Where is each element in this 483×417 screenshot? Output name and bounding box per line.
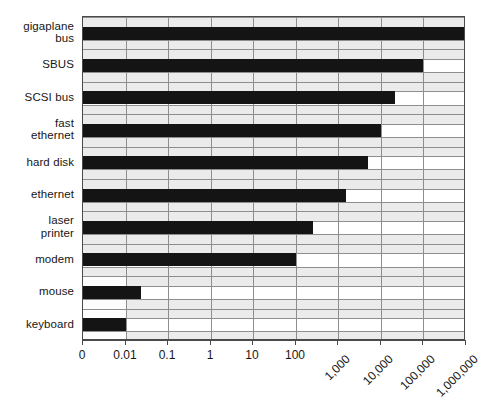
x-tick — [380, 340, 381, 345]
horizontal-gridline — [83, 276, 464, 277]
row-band — [83, 299, 464, 309]
category-label-line: laser — [0, 214, 74, 227]
row-band — [83, 40, 464, 50]
horizontal-gridline — [83, 299, 464, 300]
horizontal-gridline — [83, 40, 464, 41]
row-band — [83, 49, 464, 59]
horizontal-gridline — [83, 105, 464, 106]
category-label-line: bus — [0, 32, 74, 45]
bandwidth-bar-chart: gigaplanebusSBUSSCSI busfastethernethard… — [0, 0, 483, 417]
category-label-laser-printer: laserprinter — [0, 214, 74, 239]
category-label-line: SBUS — [0, 58, 74, 71]
horizontal-gridline — [83, 211, 464, 212]
bar-scsi-bus — [83, 91, 395, 104]
row-band-white — [83, 300, 126, 309]
x-tick — [295, 340, 296, 345]
category-label-ethernet: ethernet — [0, 188, 74, 201]
horizontal-gridline — [83, 82, 464, 83]
row-band — [83, 202, 464, 212]
x-tick-label-001: 0.01 — [113, 348, 136, 362]
horizontal-gridline — [83, 147, 464, 148]
bar-sbus — [83, 59, 423, 72]
horizontal-gridline — [83, 309, 464, 310]
bar-laser-printer — [83, 221, 313, 234]
vertical-gridline — [423, 17, 424, 339]
horizontal-gridline — [83, 169, 464, 170]
x-tick — [465, 340, 466, 345]
row-band — [83, 211, 464, 221]
bar-mouse — [83, 286, 141, 299]
row-band — [83, 137, 464, 147]
horizontal-gridline — [83, 179, 464, 180]
category-label-hard-disk: hard disk — [0, 156, 74, 169]
category-label-fast-ethernet: fastethernet — [0, 117, 74, 142]
x-axis-line — [82, 339, 465, 341]
row-band — [83, 17, 464, 27]
row-band — [83, 114, 464, 124]
horizontal-gridline — [83, 49, 464, 50]
x-tick-label-1000: 1,000 — [322, 352, 353, 383]
x-tick — [125, 340, 126, 345]
horizontal-gridline — [83, 72, 464, 73]
row-band — [83, 234, 464, 244]
category-label-line: printer — [0, 227, 74, 240]
horizontal-gridline — [83, 318, 464, 319]
row-band — [83, 82, 464, 92]
x-tick-label-100: 100 — [285, 348, 305, 362]
category-axis: gigaplanebusSBUSSCSI busfastethernethard… — [0, 16, 78, 340]
row-band — [83, 309, 464, 319]
row-band — [83, 72, 464, 82]
category-label-modem: modem — [0, 253, 74, 266]
category-label-line: SCSI bus — [0, 91, 74, 104]
x-tick — [422, 340, 423, 345]
horizontal-gridline — [83, 244, 464, 245]
category-label-sbus: SBUS — [0, 58, 74, 71]
bar-gigaplane-bus — [83, 27, 465, 40]
plot-area — [82, 16, 465, 340]
category-label-line: hard disk — [0, 156, 74, 169]
row-band — [83, 244, 464, 254]
x-tick — [167, 340, 168, 345]
bar-modem — [83, 253, 296, 266]
category-label-scsi-bus: SCSI bus — [0, 91, 74, 104]
horizontal-gridline — [83, 17, 464, 18]
row-band-white — [83, 310, 126, 319]
row-band — [83, 147, 464, 157]
x-tick — [210, 340, 211, 345]
category-label-line: keyboard — [0, 318, 74, 331]
x-tick-label-100000: 100,000 — [397, 352, 438, 393]
horizontal-gridline — [83, 137, 464, 138]
horizontal-gridline — [83, 234, 464, 235]
row-band — [83, 276, 464, 286]
row-band-white — [83, 277, 126, 286]
x-tick-label-10: 10 — [245, 348, 258, 362]
category-label-line: mouse — [0, 285, 74, 298]
x-tick-label-1000000: 1,000,000 — [433, 352, 481, 400]
bar-hard-disk — [83, 156, 368, 169]
category-label-gigaplane-bus: gigaplanebus — [0, 20, 74, 45]
category-label-line: gigaplane — [0, 20, 74, 33]
x-tick-label-10000: 10,000 — [360, 352, 396, 388]
bar-keyboard — [83, 318, 126, 331]
bar-ethernet — [83, 189, 346, 202]
category-label-line: ethernet — [0, 188, 74, 201]
bar-fast-ethernet — [83, 124, 381, 137]
category-label-mouse: mouse — [0, 285, 74, 298]
category-label-keyboard: keyboard — [0, 318, 74, 331]
x-tick — [82, 340, 83, 345]
x-tick-label-0: 0 — [79, 348, 86, 362]
horizontal-gridline — [83, 331, 464, 332]
category-label-line: modem — [0, 253, 74, 266]
horizontal-gridline — [83, 114, 464, 115]
horizontal-gridline — [83, 202, 464, 203]
row-band — [83, 169, 464, 179]
category-label-line: ethernet — [0, 129, 74, 142]
horizontal-gridline — [83, 267, 464, 268]
x-tick — [337, 340, 338, 345]
x-tick-label-1: 1 — [207, 348, 214, 362]
x-tick-label-01: 0.1 — [159, 348, 176, 362]
x-tick — [252, 340, 253, 345]
row-band — [83, 179, 464, 189]
category-label-line: fast — [0, 117, 74, 130]
